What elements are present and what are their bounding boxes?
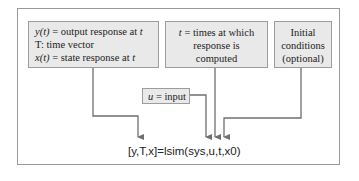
y-desc: = output response at — [50, 26, 140, 37]
y-var: y(t) — [35, 26, 50, 37]
times-line-2: response is — [168, 39, 265, 52]
output-response-line: y(t) = output response at t — [35, 25, 158, 38]
x-desc: = state response at — [50, 52, 133, 63]
times-line-3: computed — [168, 52, 265, 65]
input-desc: = input — [153, 91, 186, 102]
lsim-formula: [y,T,x]=lsim(sys,u,t,x0) — [128, 145, 241, 157]
state-response-line: x(t) = state response at t — [35, 51, 158, 64]
initial-line-2: conditions — [275, 39, 331, 52]
initial-conditions-box: Initial conditions (optional) — [274, 21, 332, 68]
times-description-box: t = times at which response is computed — [165, 21, 268, 68]
initial-line-3: (optional) — [275, 52, 331, 65]
time-vector-desc: T: time vector — [35, 39, 94, 50]
input-arrow — [190, 95, 206, 137]
times-line-1: t = times at which — [168, 26, 265, 39]
t-var: t — [132, 52, 135, 63]
times-desc-1: = times at which — [182, 27, 254, 38]
input-description-box: u = input — [142, 88, 190, 104]
initial-line-1: Initial — [275, 26, 331, 39]
time-vector-line: T: time vector — [35, 38, 158, 51]
t-var: t — [140, 26, 143, 37]
outputs-arrow — [93, 68, 138, 137]
initial-conditions-arrow — [224, 68, 301, 137]
x-var: x(t) — [35, 52, 50, 63]
outputs-description-box: y(t) = output response at t T: time vect… — [28, 21, 159, 68]
